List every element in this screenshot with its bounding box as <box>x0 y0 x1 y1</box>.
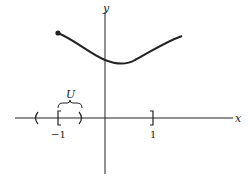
tick-label-neg-one: −1 <box>51 129 66 140</box>
diagram: x y U −1 1 <box>0 0 251 186</box>
graph-canvas: x y U −1 1 <box>0 0 251 186</box>
neighborhood-brace <box>58 100 82 108</box>
neighborhood-label: U <box>66 88 76 101</box>
closed-endpoint <box>55 30 60 35</box>
x-axis-label: x <box>235 112 242 125</box>
tick-label-one: 1 <box>150 129 156 140</box>
y-axis-label: y <box>102 2 110 15</box>
function-curve <box>58 33 182 64</box>
